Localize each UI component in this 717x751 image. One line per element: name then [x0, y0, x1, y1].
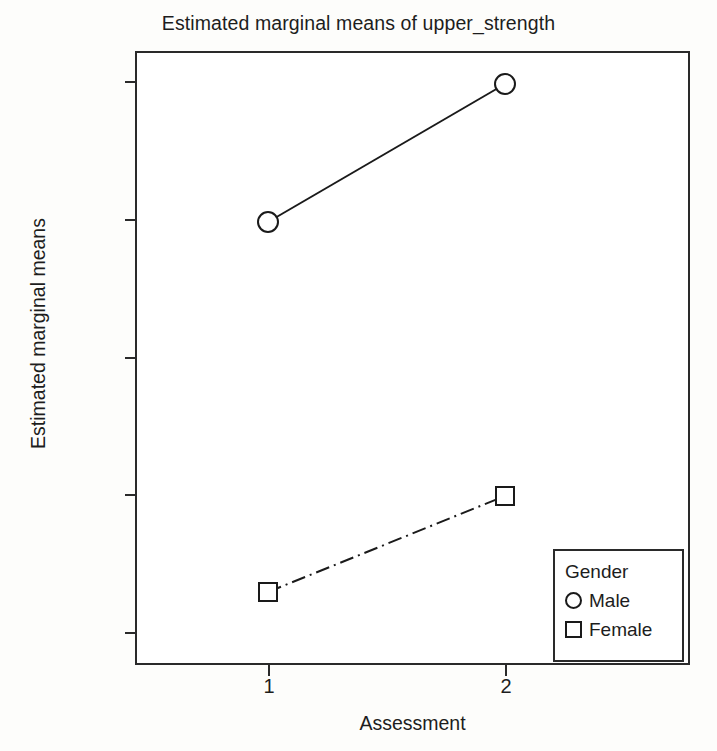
square-marker-icon — [565, 621, 582, 638]
y-axis-title: Estimated marginal means — [27, 54, 50, 614]
legend-label-female: Female — [589, 615, 652, 644]
legend: Gender Male Female — [553, 549, 684, 662]
chart-figure: Estimated marginal means of upper_streng… — [0, 0, 717, 751]
legend-title: Gender — [565, 557, 682, 586]
chart-title: Estimated marginal means of upper_streng… — [0, 12, 717, 35]
x-tick-label-2: 2 — [500, 675, 511, 698]
legend-entry-female: Female — [565, 615, 682, 644]
legend-label-male: Male — [589, 586, 630, 615]
circle-marker-icon — [565, 592, 582, 609]
x-tick-label-1: 1 — [263, 675, 274, 698]
x-axis-title: Assessment — [135, 712, 690, 735]
legend-entry-male: Male — [565, 586, 682, 615]
